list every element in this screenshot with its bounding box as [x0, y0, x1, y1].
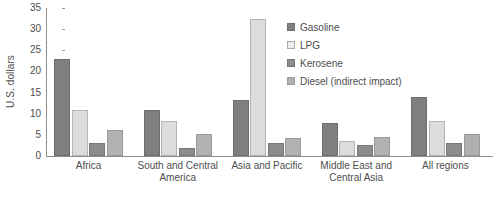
bar: [72, 110, 88, 157]
x-axis-line: [46, 156, 493, 157]
y-axis-tick-15: 15: [30, 88, 41, 98]
legend-item-label: Gasoline: [300, 22, 339, 33]
bar: [233, 100, 249, 156]
y-axis-title-label: U.S. dollars: [5, 55, 16, 108]
bar-group: [54, 8, 123, 156]
legend-item-label: LPG: [300, 40, 320, 51]
x-axis-category-label: Asia and Pacific: [221, 160, 313, 172]
bar: [357, 145, 373, 156]
y-axis-tick-30: 30: [30, 24, 41, 34]
legend-swatch-icon: [287, 59, 295, 67]
bar: [250, 19, 266, 156]
bar: [54, 59, 70, 156]
bar: [285, 138, 301, 156]
y-axis-tick-5: 5: [35, 130, 41, 140]
y-axis-title: U.S. dollars: [0, 0, 20, 163]
y-axis-tick-25: 25: [30, 45, 41, 55]
bar: [196, 134, 212, 156]
legend-item: LPG: [287, 36, 487, 54]
bar-chart-figure: U.S. dollars 05101520253035 GasolineLPGK…: [0, 0, 498, 209]
y-axis-tick-20: 20: [30, 66, 41, 76]
bar: [429, 121, 445, 156]
bar: [411, 97, 427, 156]
bar: [161, 121, 177, 156]
bar: [446, 143, 462, 156]
legend-item-label: Diesel (indirect impact): [300, 76, 402, 87]
chart-legend: GasolineLPGKeroseneDiesel (indirect impa…: [287, 18, 487, 90]
legend-item: Diesel (indirect impact): [287, 72, 487, 90]
x-axis-category-label: All regions: [399, 160, 491, 172]
bar: [179, 148, 195, 156]
legend-swatch-icon: [287, 77, 295, 85]
bar: [107, 130, 123, 156]
bar: [374, 137, 390, 156]
legend-item: Gasoline: [287, 18, 487, 36]
x-axis-category-label: Middle East and Central Asia: [310, 160, 402, 183]
legend-swatch-icon: [287, 41, 295, 49]
bar: [89, 143, 105, 156]
bar: [339, 141, 355, 156]
legend-item-label: Kerosene: [300, 58, 343, 69]
bar: [322, 123, 338, 156]
legend-item: Kerosene: [287, 54, 487, 72]
bar: [268, 143, 284, 156]
bar: [464, 134, 480, 156]
bar: [144, 110, 160, 157]
legend-swatch-icon: [287, 23, 295, 31]
y-axis-tick-35: 35: [30, 3, 41, 13]
y-axis-tick-0: 0: [35, 151, 41, 161]
x-axis-category-label: Africa: [43, 160, 135, 172]
bar-group: [144, 8, 213, 156]
x-axis-category-label: South and Central America: [132, 160, 224, 183]
y-axis-tick-10: 10: [30, 109, 41, 119]
y-axis-tick-labels: 05101520253035: [18, 0, 44, 163]
